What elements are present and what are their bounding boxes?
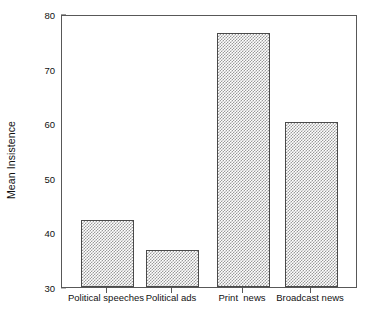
bar-chart-figure: Mean Insistence 80 70 60 50 40 30 Politi… [0,0,377,320]
bar-print-news [217,33,270,287]
bar-political-speeches [81,220,134,287]
x-category-label-print-news: Print news [219,292,266,303]
y-axis-title: Mean Insistence [0,0,22,320]
y-tick-label-80: 80 [33,10,55,21]
y-tick-label-70: 70 [33,64,55,75]
y-tick-label-60: 60 [33,119,55,130]
y-tick-label-30: 30 [33,283,55,294]
plot-area [61,15,357,288]
bar-broadcast-news [285,122,338,287]
bar-political-ads [146,250,199,287]
plot-inner [62,16,356,287]
y-tick-label-40: 40 [33,228,55,239]
x-category-label-political-ads: Political ads [146,292,197,303]
x-category-label-broadcast-news: Broadcast news [276,292,344,303]
y-tick-label-50: 50 [33,173,55,184]
x-category-label-political-speeches: Political speeches [68,292,144,303]
